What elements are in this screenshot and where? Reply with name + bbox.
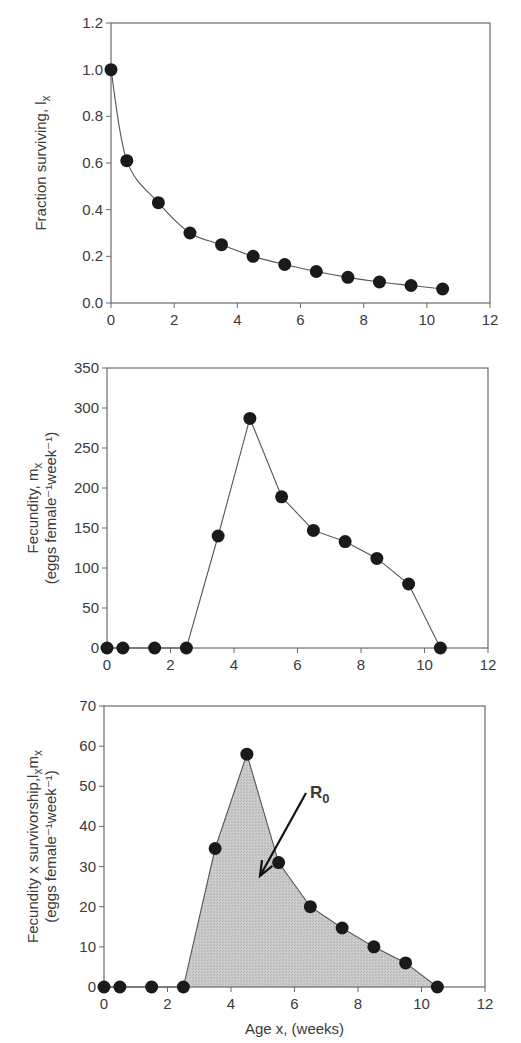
data-point [402, 578, 415, 591]
y-tick-label: 300 [74, 399, 99, 416]
survivorship-chart: 0246810120.00.20.40.60.81.01.2Fraction s… [32, 14, 498, 328]
y-axis-label-tail-sub: x [31, 750, 45, 756]
area-fill [104, 754, 437, 987]
x-tick-label: 10 [416, 656, 433, 673]
data-point [98, 981, 111, 994]
data-point [405, 279, 418, 292]
data-point [101, 642, 114, 655]
x-tick-label: 6 [293, 656, 301, 673]
data-point [177, 981, 190, 994]
data-point [307, 524, 320, 537]
data-point [152, 196, 165, 209]
data-point [436, 283, 449, 296]
y-tick-label: 0 [88, 978, 96, 995]
y-tick-label: 0.2 [82, 247, 103, 264]
figure: 0246810120.00.20.40.60.81.01.2Fraction s… [0, 0, 521, 1043]
y-tick-label: 50 [79, 777, 96, 794]
data-point [145, 981, 158, 994]
data-point [272, 856, 285, 869]
y-tick-label: 0.4 [82, 201, 103, 218]
data-point [116, 642, 129, 655]
data-point [370, 552, 383, 565]
x-tick-label: 4 [230, 656, 238, 673]
y-tick-label: 100 [74, 559, 99, 576]
y-axis-label-units: (eggs female⁻¹week⁻¹) [42, 770, 59, 923]
y-axis-label: Fraction surviving, lx [32, 95, 53, 230]
x-tick-label: 12 [480, 656, 497, 673]
x-tick-label: 12 [477, 995, 494, 1012]
data-point [212, 530, 225, 543]
y-tick-label: 0 [91, 639, 99, 656]
data-point [180, 642, 193, 655]
x-tick-label: 10 [418, 311, 435, 328]
x-tick-label: 0 [107, 311, 115, 328]
annotation-label-sub: 0 [322, 791, 329, 806]
y-tick-label: 0.0 [82, 294, 103, 311]
data-point [431, 981, 444, 994]
data-point [113, 981, 126, 994]
series-line [111, 70, 443, 289]
x-tick-label: 4 [233, 311, 241, 328]
y-axis-label-main: Fraction surviving, l [32, 101, 49, 230]
data-point [183, 227, 196, 240]
data-point [240, 748, 253, 761]
data-point [148, 642, 161, 655]
x-tick-label: 8 [354, 995, 362, 1012]
y-axis-label-units: (eggs female⁻¹week⁻¹) [42, 432, 59, 585]
figure-canvas: 0246810120.00.20.40.60.81.01.2Fraction s… [0, 0, 521, 1043]
y-tick-label: 10 [79, 938, 96, 955]
y-axis-label-tail: m [24, 756, 41, 769]
data-point [120, 154, 133, 167]
y-tick-label: 250 [74, 439, 99, 456]
data-point [339, 535, 352, 548]
data-point [367, 940, 380, 953]
data-point [310, 265, 323, 278]
y-tick-label: 1.0 [82, 61, 103, 78]
x-tick-label: 6 [296, 311, 304, 328]
x-tick-label: 2 [170, 311, 178, 328]
annotation-label-main: R [310, 783, 322, 802]
data-point [275, 490, 288, 503]
y-tick-label: 20 [79, 898, 96, 915]
data-point [243, 412, 256, 425]
y-tick-label: 1.2 [82, 14, 103, 31]
data-point [434, 642, 447, 655]
x-tick-label: 4 [227, 995, 235, 1012]
y-tick-label: 350 [74, 359, 99, 376]
y-tick-label: 30 [79, 858, 96, 875]
plot-frame [111, 23, 490, 303]
y-tick-label: 70 [79, 697, 96, 714]
x-tick-label: 0 [103, 656, 111, 673]
data-point [215, 238, 228, 251]
y-tick-label: 50 [82, 599, 99, 616]
fecundity-chart: 024681012050100150200250300350Fecundity,… [24, 359, 496, 673]
x-tick-label: 2 [163, 995, 171, 1012]
x-tick-label: 0 [100, 995, 108, 1012]
y-tick-label: 40 [79, 817, 96, 834]
data-point [209, 842, 222, 855]
y-tick-label: 60 [79, 737, 96, 754]
data-point [278, 258, 291, 271]
x-tick-label: 6 [290, 995, 298, 1012]
data-point [304, 900, 317, 913]
x-tick-label: 12 [482, 311, 499, 328]
data-point [336, 921, 349, 934]
y-tick-label: 0.6 [82, 154, 103, 171]
x-tick-label: 8 [359, 311, 367, 328]
series-line [107, 418, 440, 648]
data-point [373, 276, 386, 289]
y-tick-label: 150 [74, 519, 99, 536]
y-tick-label: 200 [74, 479, 99, 496]
y-axis-label-main: Fecundity, m [24, 469, 41, 554]
data-point [247, 250, 260, 263]
x-axis-label: Age x, (weeks) [245, 1020, 344, 1037]
y-axis-label-main: Fecundity x survivorship,l [24, 775, 41, 943]
plot-frame [107, 368, 488, 648]
data-point [105, 63, 118, 76]
x-tick-label: 8 [357, 656, 365, 673]
x-tick-label: 2 [166, 656, 174, 673]
x-tick-label: 10 [413, 995, 430, 1012]
net-reproduction-chart: 024681012010203040506070Fecundity x surv… [24, 697, 493, 1037]
y-tick-label: 0.8 [82, 107, 103, 124]
data-point [341, 271, 354, 284]
